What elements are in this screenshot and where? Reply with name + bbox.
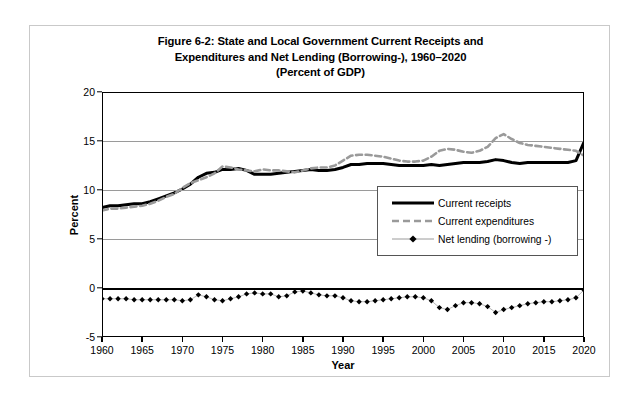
x-tick-label: 2015 bbox=[532, 344, 555, 356]
x-tick-mark bbox=[463, 337, 464, 342]
dashed-gray-line-icon bbox=[384, 214, 438, 228]
legend-item-current-receipts: Current receipts bbox=[384, 194, 569, 212]
x-tick-label: 1970 bbox=[171, 344, 194, 356]
x-tick-mark bbox=[101, 337, 102, 342]
chart-legend: Current receipts Current expenditures Ne… bbox=[377, 186, 578, 256]
y-tick-label: 5 bbox=[89, 233, 95, 245]
x-tick-label: 2000 bbox=[412, 344, 435, 356]
title-line-1: Figure 6-2: State and Local Government C… bbox=[30, 34, 611, 50]
y-tick-mark bbox=[97, 189, 102, 190]
x-tick-mark bbox=[222, 337, 223, 342]
y-tick-label: 20 bbox=[83, 86, 95, 98]
x-tick-mark bbox=[503, 337, 504, 342]
figure-container: Figure 6-2: State and Local Government C… bbox=[29, 25, 610, 377]
y-tick-label: 10 bbox=[83, 184, 95, 196]
x-tick-mark bbox=[302, 337, 303, 342]
diamond-marker-line-icon bbox=[384, 232, 438, 246]
y-tick-label: 15 bbox=[83, 135, 95, 147]
x-tick-mark bbox=[342, 337, 343, 342]
y-tick-mark bbox=[97, 287, 102, 288]
x-tick-mark bbox=[262, 337, 263, 342]
title-line-2: Expenditures and Net Lending (Borrowing-… bbox=[30, 50, 611, 66]
x-tick-mark bbox=[583, 337, 584, 342]
x-tick-label: 1980 bbox=[251, 344, 274, 356]
solid-black-line-icon bbox=[384, 196, 438, 210]
x-tick-mark bbox=[382, 337, 383, 342]
x-tick-label: 1960 bbox=[90, 344, 113, 356]
x-tick-mark bbox=[141, 337, 142, 342]
y-tick-label: 0 bbox=[89, 282, 95, 294]
x-tick-label: 1965 bbox=[130, 344, 153, 356]
x-tick-label: 1985 bbox=[291, 344, 314, 356]
legend-label-current-expenditures: Current expenditures bbox=[438, 216, 534, 227]
x-tick-label: 1995 bbox=[371, 344, 394, 356]
figure-title: Figure 6-2: State and Local Government C… bbox=[30, 34, 611, 81]
x-tick-mark bbox=[543, 337, 544, 342]
x-axis-label: Year bbox=[102, 359, 584, 371]
y-tick-mark bbox=[97, 91, 102, 92]
x-tick-label: 2020 bbox=[572, 344, 595, 356]
title-line-3: (Percent of GDP) bbox=[30, 65, 611, 81]
legend-item-net-lending: Net lending (borrowing -) bbox=[384, 230, 569, 248]
y-tick-mark bbox=[97, 238, 102, 239]
legend-label-current-receipts: Current receipts bbox=[438, 198, 511, 209]
y-tick-mark bbox=[97, 140, 102, 141]
x-tick-label: 2010 bbox=[492, 344, 515, 356]
x-tick-label: 2005 bbox=[452, 344, 475, 356]
x-tick-mark bbox=[423, 337, 424, 342]
x-tick-mark bbox=[182, 337, 183, 342]
legend-item-current-expenditures: Current expenditures bbox=[384, 212, 569, 230]
y-tick-label: -5 bbox=[86, 331, 95, 343]
y-axis-label: Percent bbox=[54, 92, 94, 337]
x-tick-label: 1975 bbox=[211, 344, 234, 356]
legend-label-net-lending: Net lending (borrowing -) bbox=[438, 234, 551, 245]
x-tick-label: 1990 bbox=[331, 344, 354, 356]
